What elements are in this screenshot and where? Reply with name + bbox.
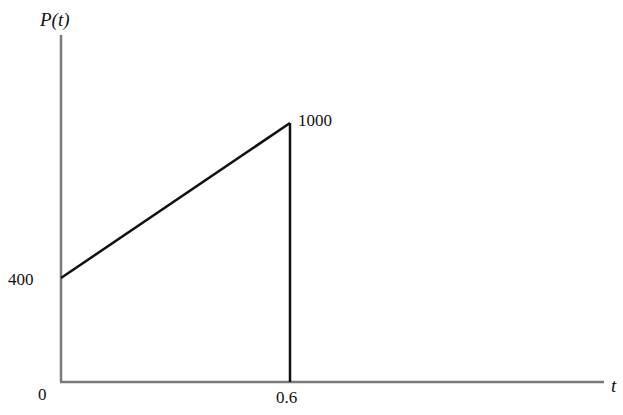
- peak-value-label: 1000: [298, 112, 332, 129]
- rising-line-segment: [61, 123, 290, 278]
- x-tick-label-0-6: 0.6: [276, 389, 297, 406]
- origin-label: 0: [38, 386, 47, 403]
- x-axis-label: t: [611, 376, 616, 395]
- chart-plot-area: [0, 0, 623, 415]
- y-axis-label: P(t): [40, 10, 70, 29]
- y-value-400-label: 400: [8, 271, 34, 288]
